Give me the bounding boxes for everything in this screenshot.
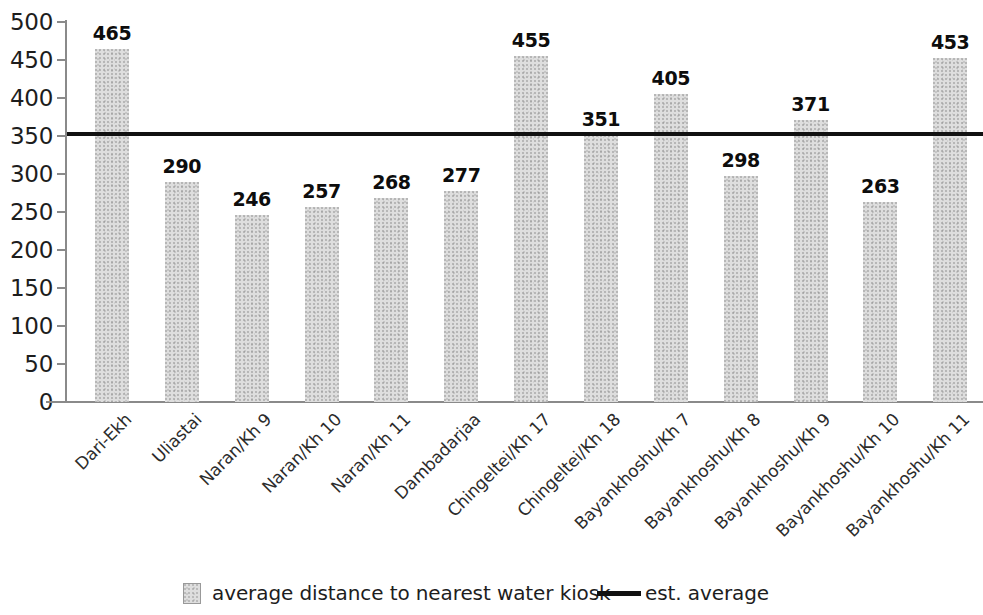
bar: [374, 198, 408, 402]
bar: [654, 94, 688, 402]
bar-value-label: 298: [708, 151, 774, 170]
bar-chart: 050100150200250300350400450500 465290246…: [0, 0, 983, 615]
est-average-reference-line: [67, 132, 983, 136]
bar-value-label: 277: [428, 166, 494, 185]
legend-label-line: est. average: [645, 583, 769, 603]
x-axis-category-labels: Dari-EkhUliastaiNaran/Kh 9Naran/Kh 10Nar…: [0, 402, 983, 577]
bar-value-label: 263: [847, 177, 913, 196]
bar-value-label: 453: [917, 33, 983, 52]
bar-value-label: 268: [358, 173, 424, 192]
bar: [514, 56, 548, 402]
bar: [165, 182, 199, 402]
legend-line-icon: [597, 591, 641, 596]
bar-value-label: 351: [568, 110, 634, 129]
bar: [933, 58, 967, 402]
bar: [235, 215, 269, 402]
legend-item-bar: average distance to nearest water kiosk: [183, 580, 611, 606]
bar: [305, 207, 339, 402]
bar: [724, 176, 758, 402]
bar-value-label: 465: [79, 24, 145, 43]
bar: [584, 135, 618, 402]
bar-value-label: 257: [289, 182, 355, 201]
bar-value-label: 371: [778, 95, 844, 114]
bar-value-label: 290: [149, 157, 215, 176]
bar: [863, 202, 897, 402]
chart-legend: average distance to nearest water kiosk …: [0, 580, 983, 615]
bar: [794, 120, 828, 402]
bar: [95, 49, 129, 402]
bar: [444, 191, 478, 402]
legend-swatch-icon: [183, 583, 201, 604]
bar-value-label: 455: [498, 31, 564, 50]
legend-label-bar: average distance to nearest water kiosk: [212, 583, 611, 603]
bar-value-label: 246: [219, 190, 285, 209]
bar-value-label: 405: [638, 69, 704, 88]
legend-item-line: est. average: [597, 580, 769, 606]
